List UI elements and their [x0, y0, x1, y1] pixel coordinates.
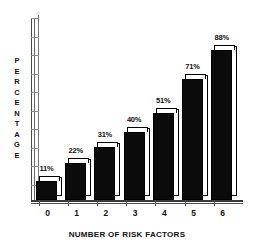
y-axis-label-letter: P — [10, 56, 24, 67]
bar: 31% — [94, 147, 115, 200]
x-axis-tick — [185, 200, 186, 206]
bar-value-label: 22% — [68, 146, 82, 155]
y-axis-tick — [31, 74, 39, 75]
y-axis-tick — [31, 18, 39, 19]
bar-side-face — [86, 159, 91, 196]
bar-side-face — [232, 46, 237, 196]
y-axis-label-letter: R — [10, 77, 24, 88]
y-axis-label-letter: T — [10, 119, 24, 130]
bar-side-face — [115, 143, 120, 196]
bar-top-face — [127, 127, 148, 132]
x-axis-tick — [39, 200, 40, 206]
y-axis-tick — [31, 148, 39, 149]
bar-top-face — [156, 108, 177, 113]
x-axis-tick — [155, 200, 156, 206]
y-axis — [31, 15, 39, 203]
y-axis-tick — [31, 92, 39, 93]
x-axis-tick — [214, 200, 215, 206]
x-axis-tick-label: 6 — [220, 208, 225, 218]
x-axis-tick-label: 3 — [133, 208, 138, 218]
bar-value-label: 88% — [214, 33, 228, 42]
bar-top-face — [97, 142, 118, 147]
bar: 51% — [153, 113, 174, 200]
bar-chart-figure: PERCENTAGE 11%022%131%240%351%471%588%6 … — [0, 0, 254, 249]
y-axis-label-letter: C — [10, 88, 24, 99]
bar-value-label: 40% — [127, 115, 141, 124]
x-axis-tick-label: 2 — [104, 208, 109, 218]
y-axis-tick — [31, 129, 39, 130]
bar-front-face — [182, 79, 203, 200]
y-axis-tick — [31, 55, 39, 56]
y-axis-label-letter: E — [10, 151, 24, 162]
y-axis-label-letter: E — [10, 98, 24, 109]
y-axis-label-letter: E — [10, 67, 24, 78]
bar-side-face — [145, 128, 150, 196]
bar-front-face — [65, 163, 86, 200]
bar: 40% — [124, 132, 145, 200]
x-axis-tick-label: 4 — [162, 208, 167, 218]
x-axis-front — [31, 202, 243, 204]
x-axis-label: NUMBER OF RISK FACTORS — [0, 230, 254, 239]
y-axis-tick — [31, 111, 39, 112]
x-axis-tick — [68, 200, 69, 206]
x-axis-tick-label: 5 — [191, 208, 196, 218]
bar: 11% — [36, 181, 57, 200]
bar: 22% — [65, 163, 86, 200]
bar-top-face — [185, 74, 206, 79]
bar-value-label: 51% — [156, 96, 170, 105]
y-axis-tick — [31, 166, 39, 167]
bar-front-face — [211, 50, 232, 200]
bar-value-label: 31% — [98, 130, 112, 139]
bar-front-face — [36, 181, 57, 200]
bar-front-face — [124, 132, 145, 200]
x-axis-tick-label: 0 — [45, 208, 50, 218]
y-axis-tick — [31, 37, 39, 38]
y-axis-label: PERCENTAGE — [10, 56, 24, 161]
x-axis — [31, 200, 243, 206]
x-axis-tick — [126, 200, 127, 206]
x-axis-tick-label: 1 — [74, 208, 79, 218]
y-axis-label-letter: G — [10, 140, 24, 151]
bar-top-face — [214, 45, 235, 50]
bar-front-face — [153, 113, 174, 200]
y-axis-label-letter: N — [10, 109, 24, 120]
bar-side-face — [174, 109, 179, 196]
bar-side-face — [203, 75, 208, 196]
bar-value-label: 11% — [40, 164, 54, 173]
bar-value-label: 71% — [185, 62, 199, 71]
bar-top-face — [39, 176, 60, 181]
bar: 88% — [211, 50, 232, 200]
y-axis-label-letter: A — [10, 130, 24, 141]
bar: 71% — [182, 79, 203, 200]
x-axis-tick — [97, 200, 98, 206]
bar-top-face — [68, 158, 89, 163]
bar-front-face — [94, 147, 115, 200]
